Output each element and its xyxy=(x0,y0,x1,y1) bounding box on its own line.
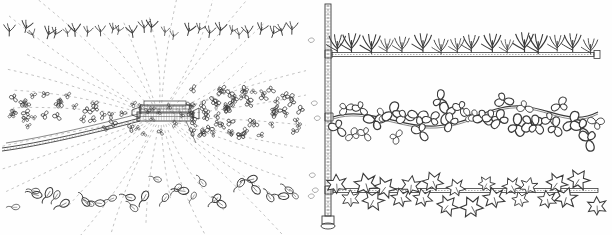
edge-overflow-symbol xyxy=(311,101,317,106)
ivy-leaf-symbol xyxy=(157,193,171,208)
edge-overflow-symbol xyxy=(308,38,314,43)
right-panel-canvas xyxy=(306,0,612,235)
clover-rosette xyxy=(516,100,533,112)
clover-leaf-symbol xyxy=(287,97,296,108)
radial-spray-line xyxy=(146,125,159,225)
grass-tuft-symbol xyxy=(274,22,288,37)
edge-overflow-symbol xyxy=(308,194,314,199)
clover-leaf-symbol xyxy=(130,100,137,108)
ivy-star-leaf xyxy=(420,169,445,194)
ivy-leaf-symbol xyxy=(102,194,117,204)
grass-blade-cluster xyxy=(481,33,501,52)
grass-blade-cluster xyxy=(360,34,381,54)
clover-leaf-symbol xyxy=(256,132,265,140)
clover-rosette xyxy=(587,117,605,129)
radial-spray-line xyxy=(4,122,148,193)
clover-leaf-symbol xyxy=(29,91,38,100)
ivy-star-leaf xyxy=(444,176,467,199)
clover-leaf-symbol xyxy=(268,121,276,129)
clover-leaf-symbol xyxy=(250,89,257,94)
clover-leaf-symbol xyxy=(64,91,71,99)
ivy-leaf-symbol xyxy=(195,173,208,188)
clover-leaf-symbol xyxy=(9,92,20,102)
clover-leaf-symbol xyxy=(266,86,276,93)
grass-tuft-symbol xyxy=(107,22,119,35)
radial-spray-line xyxy=(166,0,249,110)
ivy-star-leaf xyxy=(587,196,606,215)
grass-tuft-symbol xyxy=(254,21,268,36)
clover-leaf-symbol xyxy=(141,131,148,137)
clover-leaf-symbol xyxy=(296,105,305,116)
radial-spray-line xyxy=(106,125,156,235)
left-panel-radial-dispersal xyxy=(0,0,306,235)
grass-tuft-symbol xyxy=(3,23,15,36)
edge-overflow-symbol xyxy=(309,173,315,178)
clover-leaf-symbol xyxy=(40,110,48,120)
ivy-leaf-symbol xyxy=(246,178,262,196)
left-panel-plant-symbols xyxy=(3,19,305,214)
radial-spray-line xyxy=(168,23,264,110)
clover-leaf-symbol xyxy=(40,89,50,98)
ivy-star-leaf xyxy=(434,192,462,220)
grass-tuft-symbol xyxy=(160,26,170,37)
grass-tuft-symbol xyxy=(125,24,139,39)
right-panel-plant-post xyxy=(306,0,612,235)
clover-leaf-symbol xyxy=(30,116,36,120)
radial-spray-line xyxy=(26,54,149,112)
clover-leaf-symbol xyxy=(284,111,290,118)
radial-spray-line xyxy=(37,0,152,110)
left-panel-canvas xyxy=(0,0,306,235)
grass-blade-cluster xyxy=(379,39,394,53)
radial-spray-line xyxy=(170,123,283,201)
clover-leaf-symbol xyxy=(24,122,31,130)
ivy-leaf-symbol xyxy=(168,183,183,197)
clover-leaf-symbol xyxy=(225,116,236,126)
clover-leaf-symbol xyxy=(107,111,115,120)
grass-blade-cluster xyxy=(547,35,564,52)
grass-tuft-symbol xyxy=(227,24,239,36)
clover-leaf-symbol xyxy=(278,106,289,115)
ivy-leaf-symbol xyxy=(136,190,151,209)
grass-tuft-symbol xyxy=(182,22,197,38)
clover-leaf-symbol xyxy=(17,97,27,108)
grass-tuft-symbol xyxy=(267,25,281,40)
grass-tuft-symbol xyxy=(63,27,72,37)
radial-spray-line xyxy=(161,125,170,198)
grass-blade-cluster xyxy=(412,33,432,52)
clover-leaf-symbol xyxy=(258,89,267,97)
radial-spray-line xyxy=(100,30,154,110)
clover-rosette xyxy=(494,92,515,107)
grass-tuft-symbol xyxy=(286,21,298,35)
clover-leaf-symbol xyxy=(52,111,63,121)
radial-spray-line xyxy=(70,124,155,235)
clover-leaf-symbol xyxy=(88,115,98,125)
grass-blade-cluster xyxy=(392,36,409,52)
ivy-star-leaf xyxy=(457,192,485,220)
grass-tuft-symbol xyxy=(203,25,216,39)
arm-top-grass xyxy=(325,50,600,59)
edge-overflow-symbol xyxy=(312,188,318,193)
clover-leaf-symbol xyxy=(157,128,166,136)
left-overflow-symbols xyxy=(308,38,320,199)
clover-rosette xyxy=(388,127,403,145)
clover-leaf-symbol xyxy=(79,115,85,123)
grass-tuft-symbol xyxy=(138,20,150,33)
clover-rosette xyxy=(356,125,375,142)
radial-spray-line xyxy=(164,0,214,109)
ivy-leaf-symbol xyxy=(187,191,198,204)
ivy-star-leaf xyxy=(326,174,346,194)
radial-spray-line xyxy=(149,15,160,109)
ivy-star-leaf xyxy=(537,189,558,210)
radial-spray-line xyxy=(67,123,151,181)
grass-blade-cluster xyxy=(526,34,547,55)
clover-leaf-symbol xyxy=(189,126,198,136)
ivy-leaf-symbol xyxy=(24,188,43,199)
ivy-star-leaf xyxy=(342,189,360,207)
radial-spray-line xyxy=(161,0,182,109)
grass-tuft-symbol xyxy=(169,30,179,41)
machine-hatching xyxy=(138,106,190,121)
clover-leaf-symbol xyxy=(127,123,136,133)
ivy-leaf-symbol xyxy=(118,191,136,202)
grass-tuft-symbol xyxy=(82,25,93,37)
grass-tuft-symbol xyxy=(145,19,158,34)
